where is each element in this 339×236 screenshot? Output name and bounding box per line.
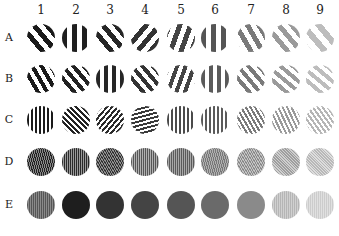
- grating-disc: [272, 148, 300, 176]
- grating-disc: [27, 106, 55, 134]
- grating-disc: [167, 65, 195, 93]
- row-label: E: [2, 198, 16, 212]
- grating-disc: [167, 191, 195, 219]
- grating-disc: [237, 148, 265, 176]
- grating-disc: [27, 65, 55, 93]
- grating-disc: [131, 148, 159, 176]
- grating-disc: [306, 148, 334, 176]
- grating-disc: [201, 148, 229, 176]
- grating-disc: [62, 106, 90, 134]
- grating-disc: [167, 106, 195, 134]
- grating-disc: [96, 191, 124, 219]
- grating-disc: [306, 191, 334, 219]
- grating-disc: [96, 24, 124, 52]
- row-label: C: [2, 113, 16, 127]
- grating-disc: [27, 191, 55, 219]
- row-label: A: [2, 31, 16, 45]
- grating-disc: [237, 106, 265, 134]
- column-label: 9: [310, 3, 330, 17]
- grating-disc: [306, 106, 334, 134]
- grating-disc: [167, 24, 195, 52]
- grating-disc: [96, 106, 124, 134]
- row-label: D: [2, 155, 16, 169]
- grating-disc: [62, 148, 90, 176]
- grating-disc: [27, 24, 55, 52]
- grating-disc: [167, 148, 195, 176]
- row-label: B: [2, 72, 16, 86]
- column-label: 6: [205, 3, 225, 17]
- column-label: 1: [31, 3, 51, 17]
- grating-disc: [131, 106, 159, 134]
- grating-disc: [201, 106, 229, 134]
- grating-disc: [306, 24, 334, 52]
- column-label: 5: [171, 3, 191, 17]
- grating-disc: [131, 191, 159, 219]
- grating-disc: [96, 148, 124, 176]
- grating-disc: [272, 24, 300, 52]
- grating-disc: [201, 65, 229, 93]
- grating-disc: [237, 191, 265, 219]
- column-label: 7: [241, 3, 261, 17]
- grating-disc: [201, 191, 229, 219]
- grating-disc: [272, 191, 300, 219]
- grating-disc: [306, 65, 334, 93]
- column-label: 4: [135, 3, 155, 17]
- grating-disc: [96, 65, 124, 93]
- grating-disc: [237, 65, 265, 93]
- grating-disc: [62, 24, 90, 52]
- column-label: 3: [100, 3, 120, 17]
- grating-disc: [62, 65, 90, 93]
- column-label: 8: [276, 3, 296, 17]
- grating-disc: [237, 24, 265, 52]
- grating-disc: [272, 106, 300, 134]
- grating-disc: [201, 24, 229, 52]
- grating-disc: [27, 148, 55, 176]
- grating-disc: [272, 65, 300, 93]
- grating-disc: [131, 24, 159, 52]
- grating-disc: [62, 191, 90, 219]
- column-label: 2: [66, 3, 86, 17]
- grating-disc: [131, 65, 159, 93]
